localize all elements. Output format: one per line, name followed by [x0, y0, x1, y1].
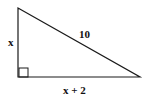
triangle-outline	[18, 8, 140, 77]
hypotenuse-label: 10	[79, 28, 91, 40]
vertical-leg-label: x	[8, 36, 14, 48]
horizontal-leg-label: x + 2	[63, 84, 86, 96]
right-angle-marker	[19, 68, 28, 77]
right-triangle-diagram: x 10 x + 2	[0, 0, 148, 100]
